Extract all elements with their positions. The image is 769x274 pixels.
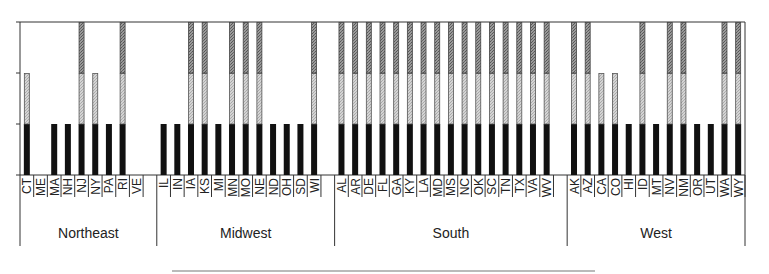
bar-segment-1 [106, 124, 112, 175]
bar-segment-3 [530, 23, 535, 74]
bar-segment-1 [489, 124, 495, 175]
category-label: WI [308, 178, 322, 193]
bar-segment-1 [311, 124, 317, 175]
bar-segment-2 [24, 74, 29, 125]
bar-segment-1 [366, 124, 372, 175]
bar-segment-3 [407, 23, 412, 74]
bar-segment-1 [585, 124, 591, 175]
category-label: IL [157, 178, 171, 188]
bar-md [434, 23, 440, 176]
bar-ct [24, 74, 30, 176]
bar-ne [256, 23, 262, 176]
bar-nm [680, 23, 686, 176]
bar-segment-3 [462, 23, 467, 74]
bar-ut [708, 124, 714, 175]
category-label: AK [568, 178, 582, 194]
bar-segment-1 [544, 124, 550, 175]
bar-segment-2 [120, 74, 125, 125]
bar-segment-3 [681, 23, 686, 74]
bar-segment-1 [297, 124, 303, 175]
bar-ak [571, 23, 577, 176]
bar-segment-1 [284, 124, 290, 175]
bar-segment-1 [65, 124, 71, 175]
bar-nv [667, 23, 673, 176]
stacked-bar-chart: CTMEMANHNJNYPARIVENortheastILINIAKSMIMNM… [0, 0, 769, 274]
category-label: OH [280, 178, 294, 196]
category-label: MO [239, 178, 253, 197]
bar-segment-1 [667, 124, 673, 175]
bar-segment-1 [503, 124, 509, 175]
category-label: AR [349, 178, 363, 195]
category-label: ND [267, 178, 281, 196]
region-group-south: ALARDEFLGAKYLAMDMSNCOKSCTNTXVAWVSouth [335, 23, 567, 247]
bar-segment-2 [530, 74, 535, 125]
category-label: CT [20, 177, 34, 194]
bar-segment-3 [722, 23, 727, 74]
bar-ms [448, 23, 454, 176]
category-label: IN [171, 178, 185, 190]
bar-segment-1 [393, 124, 399, 175]
bar-segment-2 [517, 74, 522, 125]
category-label: SD [294, 178, 308, 195]
category-label: WV [540, 178, 554, 197]
bar-oh [284, 124, 290, 175]
bar-ca [598, 74, 604, 176]
bar-nc [462, 23, 468, 176]
bar-co [612, 74, 618, 176]
plot-area: CTMEMANHNJNYPARIVENortheastILINIAKSMIMNM… [16, 22, 746, 271]
bar-segment-2 [462, 74, 467, 125]
bar-sc [489, 23, 495, 176]
bar-segment-2 [339, 74, 344, 125]
bar-segment-1 [256, 124, 262, 175]
category-label: KY [403, 178, 417, 194]
category-label: ID [636, 178, 650, 190]
bar-segment-1 [735, 124, 741, 175]
category-label: NV [663, 178, 677, 195]
bar-segment-1 [639, 124, 645, 175]
bar-segment-2 [353, 74, 358, 125]
region-group-northeast: CTMEMANHNJNYPARIVENortheast [20, 23, 156, 247]
bar-il [161, 124, 167, 175]
bar-segment-2 [476, 74, 481, 125]
region-group-west: AKAZCACOHIIDMTNVNMORUTWAWYWest [568, 23, 746, 242]
bar-segment-2 [243, 74, 248, 125]
bar-segment-1 [434, 124, 440, 175]
bar-segment-3 [312, 23, 317, 74]
bar-segment-1 [694, 124, 700, 175]
bar-segment-1 [571, 124, 577, 175]
bar-segment-2 [613, 74, 618, 125]
bar-segment-1 [92, 124, 98, 175]
category-label: KS [198, 178, 212, 194]
bar-segment-1 [721, 124, 727, 175]
category-label: NH [61, 178, 75, 195]
bar-segment-1 [516, 124, 522, 175]
category-label: MS [444, 178, 458, 196]
bar-al [338, 23, 344, 176]
category-label: MA [48, 178, 62, 196]
bar-segment-2 [585, 74, 590, 125]
bar-segment-3 [339, 23, 344, 74]
category-label: HI [622, 178, 636, 190]
bar-segment-2 [448, 74, 453, 125]
bar-fl [380, 23, 386, 176]
bar-segment-3 [120, 23, 125, 74]
bar-segment-3 [585, 23, 590, 74]
bar-segment-2 [230, 74, 235, 125]
category-label: SC [485, 178, 499, 195]
bar-segment-3 [435, 23, 440, 74]
bar-segment-1 [421, 124, 427, 175]
bar-in [174, 124, 180, 175]
category-label: OK [472, 178, 486, 195]
bar-segment-1 [680, 124, 686, 175]
region-label: West [640, 225, 672, 241]
bar-segment-2 [722, 74, 727, 125]
bar-mi [215, 124, 221, 175]
bar-or [694, 124, 700, 175]
bar-segment-1 [530, 124, 536, 175]
region-label: Midwest [220, 225, 271, 241]
category-label: NJ [75, 178, 89, 193]
bar-segment-2 [544, 74, 549, 125]
bar-segment-1 [598, 124, 604, 175]
bar-tn [503, 23, 509, 176]
bar-segment-1 [475, 124, 481, 175]
